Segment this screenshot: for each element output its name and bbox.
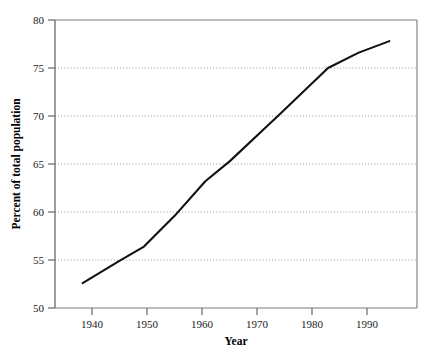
ytick-label-80: 80	[33, 14, 45, 26]
ytick-label-75: 75	[33, 62, 45, 74]
x-axis-tick-labels: 1940 1950 1960 1970 1980 1990	[81, 318, 379, 330]
ytick-label-65: 65	[33, 158, 45, 170]
y-axis-tick-labels: 50 55 60 65 70 75 80	[33, 14, 45, 314]
x-axis-title: Year	[225, 335, 248, 347]
y-axis-ticks	[48, 20, 55, 308]
xtick-label-1950: 1950	[136, 318, 159, 330]
chart-canvas: 50 55 60 65 70 75 80 1940 1950 1960 1970…	[0, 0, 432, 354]
xtick-label-1970: 1970	[246, 318, 269, 330]
y-axis-title: Percent of total population	[10, 98, 23, 230]
ytick-label-60: 60	[33, 206, 45, 218]
line-chart: 50 55 60 65 70 75 80 1940 1950 1960 1970…	[0, 0, 432, 354]
ytick-label-55: 55	[33, 254, 45, 266]
ytick-label-70: 70	[33, 110, 45, 122]
xtick-label-1980: 1980	[301, 318, 324, 330]
xtick-label-1960: 1960	[191, 318, 214, 330]
ytick-label-50: 50	[33, 302, 45, 314]
xtick-label-1940: 1940	[81, 318, 104, 330]
xtick-label-1990: 1990	[356, 318, 379, 330]
x-axis-ticks	[92, 308, 367, 315]
